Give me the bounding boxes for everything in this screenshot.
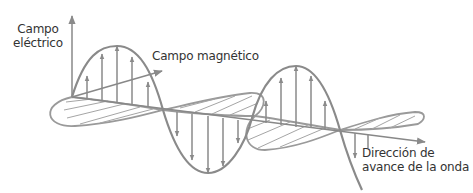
magnetic-field-label: Campo magnético xyxy=(152,49,259,63)
em-wave-diagram: Campo eléctrico Campo magnético Direcció… xyxy=(0,0,473,193)
electric-field-label: Campo eléctrico xyxy=(8,22,68,50)
electric-field-vectors xyxy=(87,46,368,173)
electric-field-wave xyxy=(72,46,362,190)
direction-label: Dirección de avance de la onda xyxy=(362,146,469,174)
